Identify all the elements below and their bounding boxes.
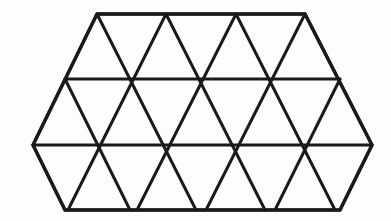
figure-background xyxy=(0,0,391,221)
triangular-grid-figure xyxy=(0,0,391,221)
